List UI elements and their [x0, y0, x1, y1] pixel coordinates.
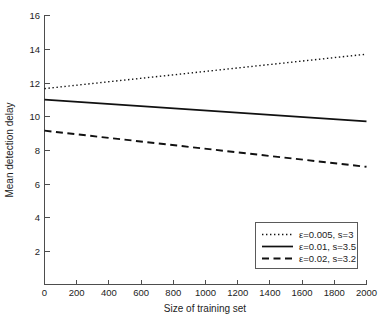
legend: ε=0.005, s=3 ε=0.01, s=3.5 ε=0.02, s=3.2 [256, 223, 358, 269]
x-axis-tick-labels: 0 200 400 600 800 1000 1200 1400 1600 18… [42, 287, 377, 298]
y-tick-label: 16 [29, 10, 40, 21]
x-tick-label: 600 [133, 287, 149, 298]
legend-label: ε=0.02, s=3.2 [299, 253, 356, 264]
x-tick-label: 1400 [259, 287, 280, 298]
series-line-dotted [45, 54, 367, 88]
x-tick-label: 1200 [227, 287, 248, 298]
x-tick-label: 400 [101, 287, 117, 298]
y-tick-label: 8 [35, 145, 40, 156]
y-axis-ticks [45, 16, 50, 252]
legend-label: ε=0.01, s=3.5 [299, 241, 356, 252]
x-tick-label: 1800 [324, 287, 345, 298]
y-tick-label: 4 [35, 212, 40, 223]
y-axis-tick-labels: 16 14 12 10 8 6 4 2 [29, 10, 40, 257]
legend-label: ε=0.005, s=3 [299, 229, 353, 240]
x-tick-label: 1600 [292, 287, 313, 298]
series-line-solid [45, 100, 367, 122]
y-tick-label: 12 [29, 78, 40, 89]
series-line-dashed [45, 131, 367, 167]
x-axis-title: Size of training set [164, 303, 246, 314]
x-tick-label: 200 [69, 287, 85, 298]
chart-figure: 16 14 12 10 8 6 4 2 0 200 400 [0, 0, 385, 321]
x-tick-label: 1000 [195, 287, 216, 298]
series-group [45, 54, 367, 167]
y-axis-title: Mean detection delay [4, 102, 15, 197]
x-tick-label: 2000 [356, 287, 377, 298]
line-chart-svg: 16 14 12 10 8 6 4 2 0 200 400 [0, 0, 385, 321]
x-tick-label: 0 [42, 287, 47, 298]
y-tick-label: 10 [29, 111, 40, 122]
y-tick-label: 14 [29, 44, 40, 55]
y-tick-label: 6 [35, 179, 40, 190]
x-tick-label: 800 [165, 287, 181, 298]
x-axis-ticks [45, 280, 367, 285]
y-tick-label: 2 [35, 246, 40, 257]
